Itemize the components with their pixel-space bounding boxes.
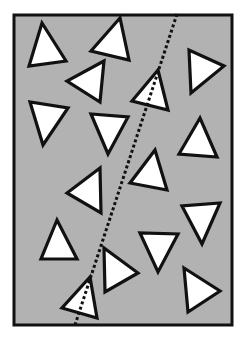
diagram-canvas	[0, 0, 251, 339]
